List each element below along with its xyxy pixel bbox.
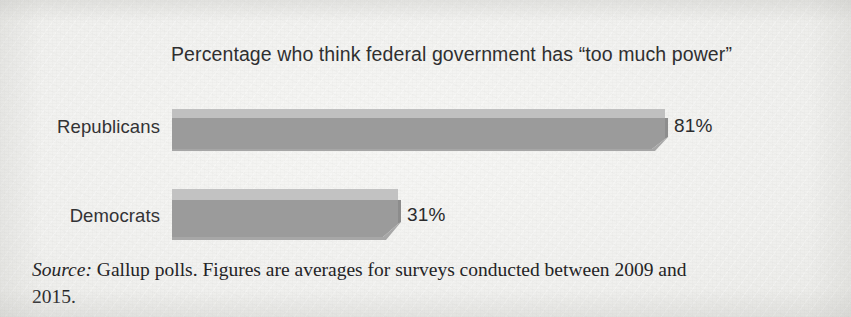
bar-democrats <box>172 189 404 241</box>
bar-row: Republicans 81% <box>0 104 851 150</box>
source-note-text: Gallup polls. Figures are averages for s… <box>32 259 687 307</box>
bar-row: Democrats 31% <box>0 186 851 246</box>
source-note-prefix: Source: <box>32 259 92 280</box>
scanned-chart-figure: Percentage who think federal government … <box>0 0 851 317</box>
bar-republicans <box>172 109 668 151</box>
value-label-democrats: 31% <box>407 204 446 226</box>
bar-republicans-shape <box>172 109 668 151</box>
bar-democrats-shape <box>172 189 404 241</box>
source-note: Source: Gallup polls. Figures are averag… <box>32 256 732 310</box>
category-label-democrats: Democrats <box>0 205 160 227</box>
category-label-republicans: Republicans <box>0 116 160 138</box>
value-label-republicans: 81% <box>674 115 713 137</box>
chart-title: Percentage who think federal government … <box>171 42 732 66</box>
